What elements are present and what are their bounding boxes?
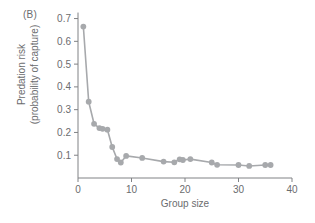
data-point: [109, 144, 115, 150]
x-tick-label: 40: [286, 184, 298, 195]
data-point: [236, 162, 242, 168]
series-markers-predation-risk: [80, 24, 273, 169]
data-point: [105, 127, 111, 133]
data-point: [123, 153, 129, 159]
y-tick-label: 0.7: [57, 13, 71, 24]
figure-panel: (B) Predation risk (probability of captu…: [0, 0, 315, 223]
x-tick-label: 20: [179, 184, 191, 195]
data-point: [268, 162, 274, 168]
y-tick-label: 0.2: [57, 127, 71, 138]
data-point: [209, 160, 215, 166]
y-tick-label: 0.6: [57, 36, 71, 47]
data-point: [214, 162, 220, 168]
data-point: [91, 121, 97, 127]
data-point: [86, 99, 92, 105]
data-point: [187, 156, 193, 162]
data-point: [246, 163, 252, 169]
data-point: [262, 162, 268, 168]
x-tick-label: 0: [75, 184, 81, 195]
y-tick-label: 0.1: [57, 150, 71, 161]
x-tick-label: 10: [126, 184, 138, 195]
y-tick-label: 0.5: [57, 59, 71, 70]
data-point: [139, 155, 145, 161]
data-point: [100, 126, 106, 132]
y-tick-label: 0.3: [57, 104, 71, 115]
data-point: [118, 160, 124, 166]
data-point: [180, 157, 186, 163]
line-chart-plot: 0.10.20.30.40.50.60.7 010203040: [0, 0, 315, 223]
data-point: [161, 159, 167, 165]
y-axis: 0.10.20.30.40.50.60.7: [57, 13, 78, 178]
x-axis: 010203040: [75, 178, 298, 195]
data-point: [80, 24, 86, 30]
data-point: [171, 159, 177, 165]
x-tick-label: 30: [233, 184, 245, 195]
y-tick-label: 0.4: [57, 81, 71, 92]
